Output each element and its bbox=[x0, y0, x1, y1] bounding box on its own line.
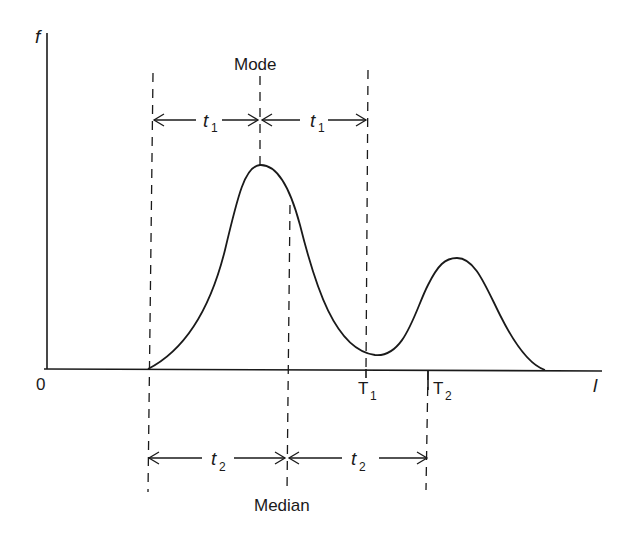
svg-text:1: 1 bbox=[211, 121, 218, 135]
svg-text:2: 2 bbox=[219, 460, 226, 474]
mode-label: Mode bbox=[234, 55, 277, 74]
T2-label: T 2 bbox=[433, 379, 452, 403]
origin-label: 0 bbox=[36, 375, 45, 394]
t1-left-label: t bbox=[203, 110, 209, 131]
t1-end-dashed-line bbox=[366, 70, 368, 369]
x-axis bbox=[44, 369, 602, 371]
svg-text:2: 2 bbox=[445, 389, 452, 403]
t2-right-interval: t 2 bbox=[289, 448, 427, 474]
t1-right-interval: t 1 bbox=[262, 110, 366, 135]
y-axis-label: f bbox=[35, 26, 42, 47]
start-dashed-line bbox=[148, 73, 153, 492]
frequency-curve bbox=[148, 165, 545, 370]
svg-text:T: T bbox=[433, 379, 443, 398]
t2-left-interval: t 2 bbox=[149, 448, 285, 474]
t2-right-label: t bbox=[351, 448, 357, 469]
median-label: Median bbox=[254, 496, 310, 515]
x-axis-label: l bbox=[593, 375, 598, 396]
t1-right-label: t bbox=[310, 110, 316, 131]
median-dashed-line bbox=[287, 205, 290, 492]
svg-text:1: 1 bbox=[318, 121, 325, 135]
svg-text:2: 2 bbox=[359, 460, 366, 474]
t2-left-label: t bbox=[211, 448, 217, 469]
t1-left-interval: t 1 bbox=[154, 110, 258, 135]
svg-text:T: T bbox=[358, 379, 368, 398]
T1-label: T 1 bbox=[358, 379, 377, 403]
svg-text:1: 1 bbox=[370, 389, 377, 403]
bimodal-distribution-diagram: f 0 l Mode t 1 t 1 T 1 T 2 bbox=[0, 0, 633, 544]
